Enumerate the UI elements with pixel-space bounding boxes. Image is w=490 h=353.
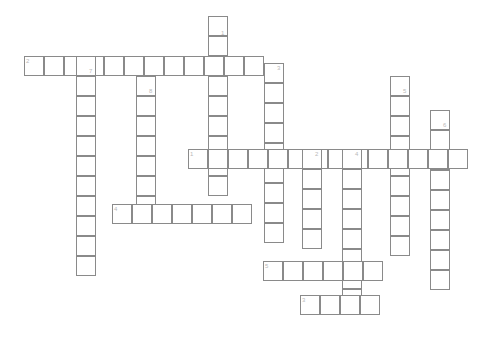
- crossword-cell[interactable]: [390, 216, 410, 236]
- crossword-cell[interactable]: [264, 223, 284, 243]
- crossword-cell[interactable]: [228, 149, 248, 169]
- crossword-cell[interactable]: [430, 250, 450, 270]
- crossword-cell[interactable]: [208, 16, 228, 36]
- crossword-cell[interactable]: [343, 261, 363, 281]
- crossword-cell[interactable]: [368, 149, 388, 169]
- crossword-cell[interactable]: [112, 204, 132, 224]
- crossword-cell[interactable]: [363, 261, 383, 281]
- crossword-cell[interactable]: [302, 169, 322, 189]
- crossword-cell[interactable]: [172, 204, 192, 224]
- crossword-cell[interactable]: [342, 169, 362, 189]
- crossword-cell[interactable]: [430, 110, 450, 130]
- crossword-cell[interactable]: [302, 229, 322, 249]
- crossword-cell[interactable]: [390, 196, 410, 216]
- crossword-cell[interactable]: [430, 130, 450, 150]
- crossword-cell[interactable]: [124, 56, 144, 76]
- crossword-cell[interactable]: [104, 56, 124, 76]
- crossword-cell[interactable]: [208, 116, 228, 136]
- crossword-cell[interactable]: [388, 149, 408, 169]
- crossword-cell[interactable]: [302, 189, 322, 209]
- crossword-cell[interactable]: [76, 156, 96, 176]
- crossword-cell[interactable]: [212, 204, 232, 224]
- crossword-cell[interactable]: [76, 216, 96, 236]
- crossword-cell[interactable]: [323, 261, 343, 281]
- crossword-grid[interactable]: 1235786124453: [0, 0, 490, 353]
- crossword-cell[interactable]: [76, 176, 96, 196]
- crossword-cell[interactable]: [208, 96, 228, 116]
- crossword-cell[interactable]: [184, 56, 204, 76]
- crossword-cell[interactable]: [342, 149, 362, 169]
- crossword-cell[interactable]: [430, 190, 450, 210]
- crossword-cell[interactable]: [320, 295, 340, 315]
- crossword-cell[interactable]: [136, 96, 156, 116]
- crossword-cell[interactable]: [340, 295, 360, 315]
- crossword-cell[interactable]: [76, 236, 96, 256]
- crossword-cell[interactable]: [390, 76, 410, 96]
- crossword-cell[interactable]: [204, 56, 224, 76]
- crossword-cell[interactable]: [268, 149, 288, 169]
- crossword-cell[interactable]: [208, 36, 228, 56]
- crossword-cell[interactable]: [390, 96, 410, 116]
- crossword-cell[interactable]: [208, 149, 228, 169]
- crossword-cell[interactable]: [188, 149, 208, 169]
- crossword-cell[interactable]: [136, 76, 156, 96]
- crossword-cell[interactable]: [342, 189, 362, 209]
- crossword-cell[interactable]: [428, 149, 448, 169]
- crossword-cell[interactable]: [144, 56, 164, 76]
- crossword-cell[interactable]: [164, 56, 184, 76]
- crossword-cell[interactable]: [76, 96, 96, 116]
- crossword-puzzle: 1235786124453: [0, 0, 490, 353]
- crossword-cell[interactable]: [76, 76, 96, 96]
- crossword-cell[interactable]: [192, 204, 212, 224]
- crossword-cell[interactable]: [264, 203, 284, 223]
- crossword-cell[interactable]: [264, 63, 284, 83]
- crossword-cell[interactable]: [232, 204, 252, 224]
- crossword-cell[interactable]: [390, 236, 410, 256]
- crossword-cell[interactable]: [430, 230, 450, 250]
- crossword-cell[interactable]: [76, 116, 96, 136]
- crossword-cell[interactable]: [408, 149, 428, 169]
- crossword-cell[interactable]: [264, 103, 284, 123]
- crossword-cell[interactable]: [136, 116, 156, 136]
- crossword-cell[interactable]: [264, 123, 284, 143]
- crossword-cell[interactable]: [360, 295, 380, 315]
- crossword-cell[interactable]: [208, 76, 228, 96]
- crossword-cell[interactable]: [132, 204, 152, 224]
- crossword-cell[interactable]: [300, 295, 320, 315]
- crossword-cell[interactable]: [390, 176, 410, 196]
- crossword-cell[interactable]: [208, 176, 228, 196]
- crossword-cell[interactable]: [302, 209, 322, 229]
- crossword-cell[interactable]: [390, 116, 410, 136]
- crossword-cell[interactable]: [244, 56, 264, 76]
- crossword-cell[interactable]: [430, 170, 450, 190]
- crossword-cell[interactable]: [44, 56, 64, 76]
- crossword-cell[interactable]: [264, 183, 284, 203]
- crossword-cell[interactable]: [76, 196, 96, 216]
- crossword-cell[interactable]: [24, 56, 44, 76]
- crossword-cell[interactable]: [76, 256, 96, 276]
- crossword-cell[interactable]: [303, 261, 323, 281]
- crossword-cell[interactable]: [430, 270, 450, 290]
- crossword-cell[interactable]: [302, 149, 322, 169]
- crossword-cell[interactable]: [136, 176, 156, 196]
- crossword-cell[interactable]: [136, 136, 156, 156]
- crossword-cell[interactable]: [283, 261, 303, 281]
- crossword-cell[interactable]: [342, 209, 362, 229]
- crossword-cell[interactable]: [76, 136, 96, 156]
- crossword-cell[interactable]: [248, 149, 268, 169]
- crossword-cell[interactable]: [342, 229, 362, 249]
- crossword-cell[interactable]: [264, 83, 284, 103]
- crossword-cell[interactable]: [263, 261, 283, 281]
- crossword-cell[interactable]: [448, 149, 468, 169]
- crossword-cell[interactable]: [430, 210, 450, 230]
- crossword-cell[interactable]: [152, 204, 172, 224]
- crossword-cell[interactable]: [224, 56, 244, 76]
- crossword-cell[interactable]: [76, 56, 96, 76]
- crossword-cell[interactable]: [136, 156, 156, 176]
